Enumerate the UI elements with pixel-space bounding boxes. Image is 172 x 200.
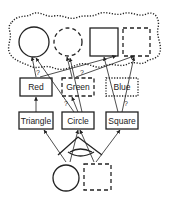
dotted-cloud-outline (9, 13, 161, 70)
top-square-dashed (123, 28, 150, 56)
top-circle-solid (19, 27, 49, 57)
shape-node-square: Square (106, 112, 138, 129)
bottom-circle (53, 165, 79, 191)
top-circle-dashed (54, 28, 82, 56)
question-mark: ? (80, 69, 84, 76)
constraint-triangle (58, 137, 102, 156)
question-mark: ? (36, 69, 40, 76)
shape-node-square-label: Square (108, 116, 136, 126)
shape-node-triangle-label: Triangle (21, 116, 52, 126)
color-node-blue: Blue (106, 78, 138, 96)
color-node-green-label: Green (66, 82, 90, 92)
diagram-canvas: Red Green Blue ? ? ? ? Triangle Circle S… (0, 0, 172, 200)
shape-node-circle: Circle (62, 112, 94, 129)
shape-node-triangle: Triangle (19, 112, 53, 129)
bottom-square-dashed (84, 164, 111, 190)
color-node-red-label: Red (28, 82, 44, 92)
shape-node-circle-label: Circle (67, 116, 89, 126)
bottom-arrows (44, 130, 120, 162)
top-square-solid (90, 28, 118, 56)
color-node-red: Red (20, 78, 52, 96)
